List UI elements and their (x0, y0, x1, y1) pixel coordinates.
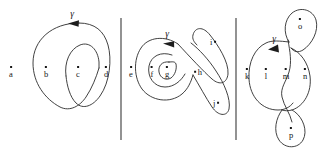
middle-panel-curves (135, 29, 229, 115)
middle-inner-lobe-curve (149, 54, 185, 87)
right-gamma-arrowhead-icon (268, 45, 279, 53)
figure-canvas (0, 0, 333, 154)
right-top-teardrop-curve (285, 9, 317, 51)
right-bottom-teardrop-curve (276, 110, 305, 147)
left-inner-loop-curve (66, 44, 99, 76)
middle-lower-right-lobe-curve (191, 43, 229, 114)
middle-outer-lobe-curve (135, 38, 193, 100)
middle-innermost-loop-curve (159, 62, 176, 79)
middle-gamma-arrowhead-icon (163, 41, 174, 47)
right-panel-curves (249, 9, 317, 146)
left-panel-curves (33, 23, 110, 109)
left-gamma-arrowhead-icon (68, 20, 79, 27)
figure-container: γ γ γ a b c d e f g h i j (0, 0, 333, 154)
right-outer-lobe-curve (249, 41, 293, 110)
middle-upper-right-lobe-curve (178, 29, 228, 83)
